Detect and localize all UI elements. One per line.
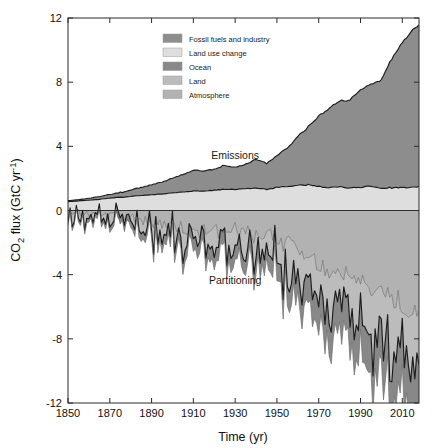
y-tick-label: -4	[52, 269, 62, 281]
co2-flux-chart: 185018701890191019301950197019902010 -12…	[0, 0, 432, 448]
x-tick-label: 1890	[139, 407, 163, 419]
legend-swatch-land	[163, 76, 182, 85]
x-tick-label: 1870	[98, 407, 122, 419]
x-tick-label: 1970	[306, 407, 330, 419]
legend-swatch-fossil-fuels-and-industry	[163, 34, 182, 43]
y-tick-label: 4	[56, 140, 62, 152]
x-tick-label: 1990	[348, 407, 372, 419]
annotation-emissions: Emissions	[211, 149, 259, 161]
x-tick-label: 1930	[223, 407, 247, 419]
y-tick-label: -8	[52, 333, 62, 345]
y-tick-label: 12	[50, 12, 62, 24]
x-tick-label: 1910	[181, 407, 205, 419]
annotation-partitioning: Partitioning	[209, 274, 262, 286]
legend-label-land: Land	[189, 77, 206, 86]
legend-label-atmosphere: Atmosphere	[189, 91, 229, 100]
legend-swatch-atmosphere	[163, 90, 182, 99]
legend-label-land-use-change: Land use change	[189, 49, 247, 58]
legend-label-fossil-fuels-and-industry: Fossil fuels and industry	[189, 35, 270, 44]
legend-label-ocean: Ocean	[189, 63, 211, 72]
chart-svg: 185018701890191019301950197019902010 -12…	[0, 0, 432, 448]
y-tick-label: -12	[46, 397, 62, 409]
y-tick-label: 0	[56, 205, 62, 217]
x-tick-label: 2010	[390, 407, 414, 419]
y-axis-title: CO2 flux (GtC yr-1)	[7, 158, 26, 261]
legend-swatch-ocean	[163, 62, 182, 71]
legend-swatch-land-use-change	[163, 48, 182, 57]
x-axis-title: Time (yr)	[218, 430, 268, 444]
x-tick-label: 1950	[265, 407, 289, 419]
y-tick-label: 8	[56, 76, 62, 88]
